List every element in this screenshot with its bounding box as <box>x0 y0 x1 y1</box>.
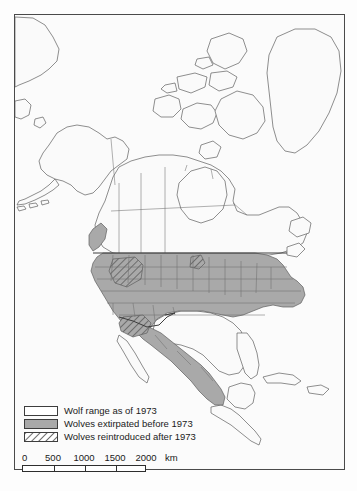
scale-bar-tick-1 <box>54 466 55 471</box>
legend-label-reintroduced: Wolves reintroduced after 1973 <box>64 431 196 442</box>
scale-bar: 0 500 1000 1500 2000 km <box>22 452 212 472</box>
scale-bar-labels: 0 500 1000 1500 2000 km <box>22 452 212 464</box>
legend-label-wolf-range: Wolf range as of 1973 <box>64 405 157 416</box>
scale-bar-tick-2 <box>85 466 86 471</box>
legend: Wolf range as of 1973 Wolves extirpated … <box>24 404 204 443</box>
legend-item-reintroduced: Wolves reintroduced after 1973 <box>24 430 204 443</box>
north-america-map <box>15 15 343 468</box>
legend-label-extirpated: Wolves extirpated before 1973 <box>64 418 193 429</box>
wolf-range-figure: Wolf range as of 1973 Wolves extirpated … <box>0 0 357 491</box>
legend-item-extirpated: Wolves extirpated before 1973 <box>24 417 204 430</box>
legend-item-wolf-range: Wolf range as of 1973 <box>24 404 204 417</box>
scale-bar-tick-3 <box>116 466 117 471</box>
scale-tick-label-500: 500 <box>45 452 61 463</box>
legend-hatch-pattern <box>25 433 57 441</box>
scale-unit-label: km <box>165 452 178 463</box>
scale-tick-label-1500: 1500 <box>104 452 125 463</box>
scale-bar-track <box>22 465 146 472</box>
scale-tick-label-2000: 2000 <box>135 452 156 463</box>
legend-swatch-gray-box <box>24 419 58 429</box>
scale-tick-label-0: 0 <box>22 452 27 463</box>
map-frame <box>14 14 345 470</box>
legend-swatch-hatched-box <box>24 432 58 442</box>
scale-tick-label-1000: 1000 <box>73 452 94 463</box>
legend-swatch-white-box <box>24 406 58 416</box>
